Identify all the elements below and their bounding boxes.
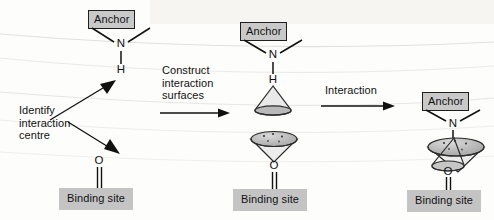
construct-interaction-surfaces-label: Construct interaction surfaces — [162, 64, 213, 102]
stage-2-nitrogen-atom: N — [266, 49, 280, 61]
stage-3-oxygen-atom: O — [441, 166, 455, 178]
stage-1-anchor-label: Anchor — [94, 13, 129, 25]
pharmacophore-interaction-diagram: Anchor N H Identify interaction centre O… — [0, 0, 494, 220]
stage-1-double-bond — [94, 167, 106, 189]
stage-2-donor-interaction-cone — [249, 84, 297, 120]
stage-1-binding-site-label: Binding site — [67, 192, 125, 204]
interaction-label: Interaction — [325, 84, 377, 97]
stage-2-double-bond — [269, 172, 281, 190]
stage-1-nitrogen-atom: N — [114, 38, 128, 50]
stage-2-binding-site-label: Binding site — [241, 193, 299, 205]
stage-3-binding-site-label: Binding site — [415, 194, 473, 206]
stage-2-binding-site-box: Binding site — [233, 189, 307, 211]
identify-interaction-centre-label: Identify interaction centre — [19, 104, 70, 142]
stage-3-anchor-label: Anchor — [428, 95, 463, 107]
stage-1-oxygen-atom: O — [92, 155, 106, 167]
stage-3-interaction-complex-cones — [418, 132, 492, 188]
stage-3-nitrogen-atom: N — [446, 118, 460, 130]
stage-1-binding-site-box: Binding site — [59, 188, 133, 210]
interaction-arrow — [321, 99, 397, 113]
stage-3-binding-site-box: Binding site — [407, 190, 481, 212]
construct-surfaces-arrow — [160, 106, 232, 120]
stage-3-double-bond — [443, 177, 455, 191]
stage-2-anchor-label: Anchor — [246, 25, 281, 37]
stage-2-oxygen-atom: O — [267, 160, 281, 172]
stage-1-hydrogen-atom: H — [114, 64, 128, 76]
